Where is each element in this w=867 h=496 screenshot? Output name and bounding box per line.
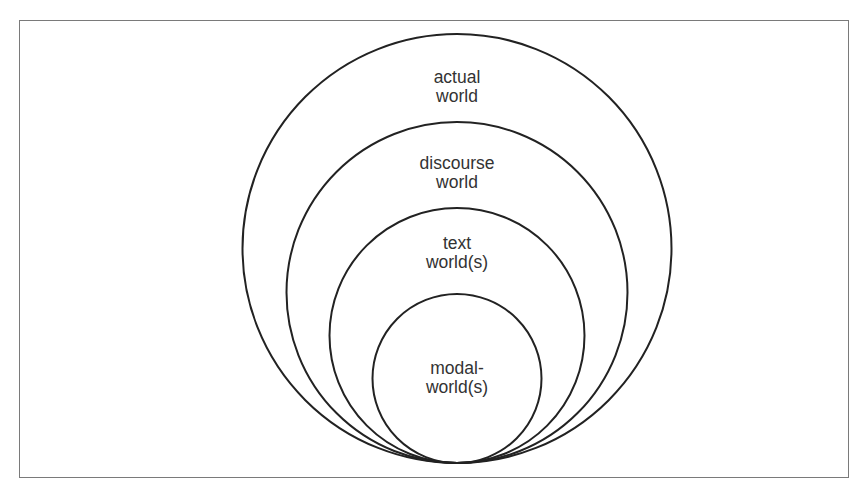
actual-world-label: actual world bbox=[357, 68, 557, 106]
text-world-label: text world(s) bbox=[357, 234, 557, 272]
discourse-world-line-2: world bbox=[357, 173, 557, 192]
text-world-line-1: text bbox=[357, 234, 557, 253]
text-world-line-2: world(s) bbox=[357, 253, 557, 272]
discourse-world-line-1: discourse bbox=[357, 154, 557, 173]
discourse-world-label: discourse world bbox=[357, 154, 557, 192]
modal-world-label: modal- world(s) bbox=[357, 359, 557, 397]
actual-world-line-2: world bbox=[357, 87, 557, 106]
modal-world-line-1: modal- bbox=[357, 359, 557, 378]
actual-world-line-1: actual bbox=[357, 68, 557, 87]
modal-world-line-2: world(s) bbox=[357, 378, 557, 397]
